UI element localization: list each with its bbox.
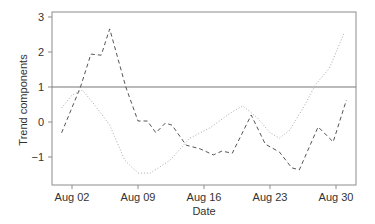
x-tick-label: Aug 30 [319,191,354,203]
x-axis-title: Date [192,205,215,217]
x-tick-label: Aug 16 [187,191,222,203]
x-tick-label: Aug 23 [253,191,288,203]
y-tick-label: −1 [31,151,44,163]
y-tick-label: 3 [38,11,44,23]
y-axis-title: Trend components [17,54,29,146]
dotted-series-line [62,32,345,173]
y-tick-label: 1 [38,81,44,93]
x-tick-label: Aug 02 [55,191,90,203]
y-axis: 3 2 1 0 −1 Trend components [17,11,52,163]
x-axis: Aug 02 Aug 09 Aug 16 Aug 23 Aug 30 Date [55,185,354,217]
trend-components-chart: 3 2 1 0 −1 Trend components Aug 02 Aug 0… [0,0,375,224]
series-layer [62,29,347,173]
dashed-series-line [62,29,347,170]
y-tick-label: 2 [38,46,44,58]
y-tick-label: 0 [38,116,44,128]
plot-frame [52,12,356,185]
x-tick-label: Aug 09 [121,191,156,203]
